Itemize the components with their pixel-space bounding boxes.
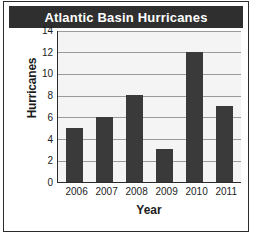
y-axis-tick-label: 12: [31, 48, 53, 58]
x-axis-tick-label: 2010: [186, 186, 203, 197]
bar: [186, 52, 203, 182]
x-axis-tick-label: 2009: [156, 186, 173, 197]
y-axis-tick-label: 6: [31, 113, 53, 123]
bar-series: [58, 31, 241, 182]
x-axis-tick-label: 2011: [216, 186, 233, 197]
x-axis-tick-label: 2006: [66, 186, 83, 197]
y-axis-tick-label: 8: [31, 91, 53, 101]
y-axis-tick-labels: 02468101214: [31, 31, 53, 183]
y-axis-tick-label: 14: [31, 26, 53, 36]
x-axis-label: Year: [57, 203, 241, 217]
bar: [66, 128, 83, 182]
chart-title: Atlantic Basin Hurricanes: [44, 11, 207, 24]
bar: [126, 95, 143, 182]
bar: [96, 117, 113, 182]
x-axis-tick-labels: 200620072008200920102011: [57, 186, 241, 197]
y-axis-tick-label: 2: [31, 156, 53, 166]
chart-figure: Atlantic Basin Hurricanes Hurricanes 024…: [3, 1, 249, 232]
y-axis-tick-label: 4: [31, 135, 53, 145]
chart-body: Hurricanes 02468101214 20062007200820092…: [9, 31, 243, 226]
bar: [216, 106, 233, 182]
bar: [156, 149, 173, 182]
y-axis-tick-label: 10: [31, 69, 53, 79]
y-axis-tick-label: 0: [31, 178, 53, 188]
x-axis-tick-label: 2007: [96, 186, 113, 197]
x-axis-tick-label: 2008: [126, 186, 143, 197]
plot-area: [57, 31, 241, 183]
